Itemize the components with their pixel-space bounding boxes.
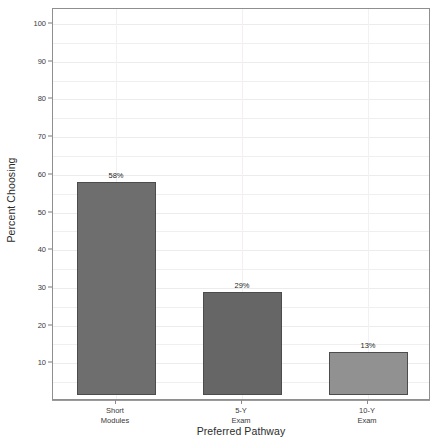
bar	[329, 352, 408, 395]
y-axis-tick-label: 20	[38, 320, 46, 329]
y-axis-tick-label: 80	[38, 94, 46, 103]
x-axis-tick-label: 5-YExam	[231, 406, 250, 425]
y-axis-title-text: Percent Choosing	[5, 157, 17, 242]
gridline-horizontal-minor	[53, 81, 429, 82]
gridline-horizontal-minor	[53, 156, 429, 157]
x-axis-tick-label-line: Exam	[231, 416, 250, 426]
x-axis-tick-mark	[115, 400, 116, 404]
gridline-horizontal-major	[53, 24, 429, 25]
y-axis-tick-label: 40	[38, 245, 46, 254]
gridline-horizontal-minor	[53, 118, 429, 119]
y-axis-tick-label: 70	[38, 132, 46, 141]
bar-value-label: 13%	[360, 341, 375, 350]
y-axis-tick-label: 60	[38, 169, 46, 178]
x-axis-tick-label-line: Modules	[101, 416, 129, 426]
y-axis-tick-label: 10	[38, 358, 46, 367]
y-axis-title: Percent Choosing	[0, 0, 22, 400]
bar-value-label: 29%	[234, 281, 249, 290]
bar-value-label: 58%	[108, 171, 123, 180]
gridline-horizontal-major	[53, 99, 429, 100]
x-axis-tick-label-line: Exam	[357, 416, 376, 426]
y-axis-tick-label: 100	[33, 19, 46, 28]
x-axis-tick-mark	[367, 400, 368, 404]
gridline-horizontal-minor	[53, 43, 429, 44]
bar-chart-figure: Percent Choosing 102030405060708090100 5…	[0, 0, 445, 447]
x-axis-tick-label-line: Short	[101, 406, 129, 416]
x-axis-tick-mark	[241, 400, 242, 404]
y-axis-tick-label: 30	[38, 282, 46, 291]
y-axis-tick-label: 50	[38, 207, 46, 216]
y-axis-tick-label: 90	[38, 56, 46, 65]
bar	[77, 182, 156, 395]
gridline-horizontal-major	[53, 137, 429, 138]
x-axis-tick-label-line: 10-Y	[357, 406, 376, 416]
x-axis-title: Preferred Pathway	[52, 425, 430, 437]
bar	[203, 292, 282, 396]
x-axis-tick-label: 10-YExam	[357, 406, 376, 425]
plot-panel: 58%29%13%	[52, 8, 430, 400]
gridline-horizontal-major	[53, 62, 429, 63]
x-axis-tick-label-line: 5-Y	[231, 406, 250, 416]
x-axis-tick-label: ShortModules	[101, 406, 129, 425]
y-axis-ticks: 102030405060708090100	[22, 8, 52, 400]
